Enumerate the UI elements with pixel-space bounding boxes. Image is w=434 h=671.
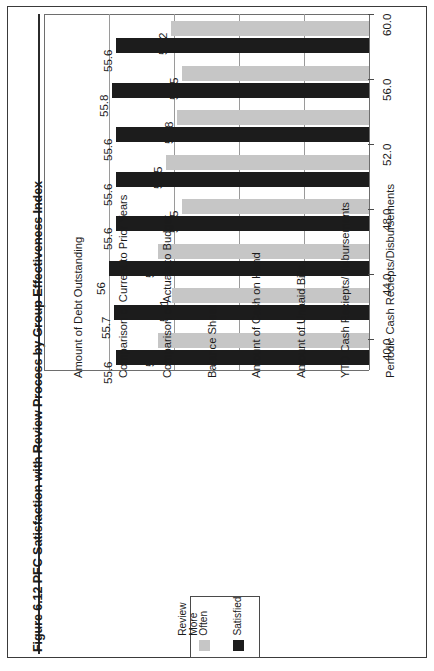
- category-label: Comparison of Actuals to Budget: [161, 215, 173, 378]
- category-label: YTD Cash Reciepts/Disbursements: [339, 202, 351, 378]
- plot-top-border: [44, 14, 369, 15]
- gridline: [44, 14, 45, 370]
- legend-label-review-more-often: Review More Often: [178, 603, 210, 636]
- bar-value-label: 55.8: [98, 94, 110, 116]
- bar-satisfied: [116, 38, 370, 53]
- bar-value-label: 55.6: [102, 361, 114, 383]
- bar-review-more-often: [166, 155, 369, 170]
- bar-satisfied: [109, 261, 369, 276]
- axis-tick-label: 60.0: [381, 14, 393, 36]
- bar-satisfied: [116, 172, 370, 187]
- bar-satisfied: [116, 216, 370, 231]
- bar-value-label: 55.6: [102, 139, 114, 161]
- bar-satisfied: [114, 305, 369, 320]
- bar-satisfied: [116, 350, 370, 365]
- bar-review-more-often: [177, 110, 369, 125]
- chart-legend: Review More OftenSatisfied: [190, 596, 260, 658]
- bar-review-more-often: [182, 66, 369, 81]
- bar-value-label: 56: [95, 282, 107, 295]
- bar-review-more-often: [171, 21, 369, 36]
- bar-satisfied: [112, 83, 369, 98]
- axis-tick-mark: [368, 339, 374, 340]
- category-label: Amount of Unpaid Bills: [295, 265, 307, 378]
- figure-page: Figure 6.12 PFC Satisfaction with Review…: [0, 0, 434, 671]
- bar-satisfied: [116, 127, 370, 142]
- category-label: Amount of Cash on Hand: [250, 252, 262, 378]
- bar-review-more-often: [158, 244, 369, 259]
- category-label: Amount of Debt Outstanding: [72, 237, 84, 378]
- figure-title-container: Figure 6.12 PFC Satisfaction with Review…: [9, 8, 37, 656]
- axis-tick-mark: [368, 79, 374, 80]
- bar-value-label: 55.7: [100, 317, 112, 339]
- bar-value-label: 55.6: [102, 183, 114, 205]
- bar-value-label: 55.6: [102, 228, 114, 250]
- axis-tick-label: 56.0: [381, 79, 393, 101]
- bar-value-label: 55.6: [102, 50, 114, 72]
- axis-tick-mark: [368, 14, 374, 15]
- page-title: Figure 6.12 PFC Satisfaction with Review…: [31, 12, 45, 652]
- axis-tick-label: 52.0: [381, 144, 393, 166]
- axis-tick-mark: [368, 209, 374, 210]
- axis-tick-mark: [368, 274, 374, 275]
- gridline: [369, 14, 370, 370]
- legend-swatch-satisfied: [233, 640, 244, 651]
- bar-review-more-often: [158, 333, 369, 348]
- category-label: Comparison of Current to Prior Years: [117, 195, 129, 378]
- category-label: Periodic Cash Reciepts/Disbursements: [384, 184, 396, 378]
- legend-label-satisfied: Satisfied: [233, 597, 244, 636]
- legend-swatch-review-more-often: [199, 640, 210, 651]
- axis-tick-mark: [368, 144, 374, 145]
- category-label: Balance Sheet: [206, 305, 218, 378]
